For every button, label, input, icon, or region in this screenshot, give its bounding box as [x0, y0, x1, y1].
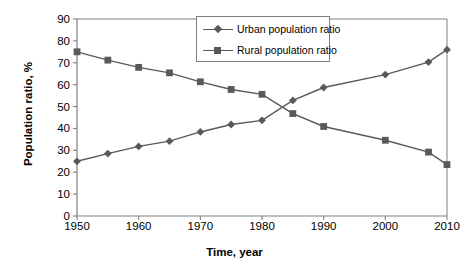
data-point-urban: [166, 137, 174, 145]
legend-item-urban: Urban population ratio: [203, 21, 340, 37]
data-point-rural: [320, 123, 327, 130]
data-point-rural: [228, 86, 235, 93]
data-point-urban: [104, 150, 112, 158]
data-point-rural: [166, 69, 173, 76]
data-point-rural: [104, 57, 111, 64]
legend-label-urban: Urban population ratio: [237, 23, 340, 35]
data-point-rural: [444, 161, 451, 168]
legend-item-rural: Rural population ratio: [203, 42, 337, 58]
data-point-urban: [73, 157, 81, 165]
data-point-urban: [320, 84, 328, 92]
data-point-rural: [425, 149, 432, 156]
data-point-urban: [425, 58, 433, 66]
data-point-rural: [135, 64, 142, 71]
legend-label-rural: Rural population ratio: [237, 44, 337, 56]
data-point-urban: [135, 142, 143, 150]
data-point-urban: [227, 121, 235, 129]
legend-marker-diamond-icon: [203, 23, 233, 35]
data-point-rural: [289, 110, 296, 117]
legend-marker-square-icon: [203, 44, 233, 56]
population-ratio-line-chart: Population ratio, % Time, year 010203040…: [0, 0, 469, 276]
chart-legend: Urban population ratio Rural population …: [196, 16, 330, 62]
data-point-urban: [289, 97, 297, 105]
data-point-rural: [259, 91, 266, 98]
data-point-rural: [74, 48, 81, 55]
data-point-urban: [196, 128, 204, 136]
data-point-urban: [443, 46, 451, 54]
data-point-rural: [382, 137, 389, 144]
data-point-urban: [381, 71, 389, 79]
data-point-rural: [197, 78, 204, 85]
data-point-urban: [258, 116, 266, 124]
